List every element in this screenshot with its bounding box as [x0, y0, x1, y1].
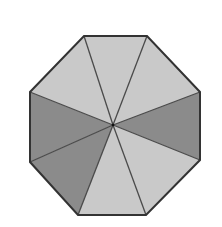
octagon-diagram — [0, 0, 222, 227]
center-point — [112, 124, 114, 126]
